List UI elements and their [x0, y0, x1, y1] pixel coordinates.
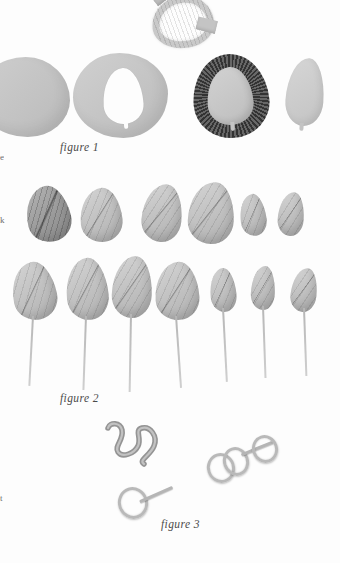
leaf-vein-texture — [140, 182, 185, 243]
figure2-wire-stem-4 — [175, 316, 182, 388]
leaf-vein-texture — [111, 255, 153, 318]
figure2-top-leaf-6 — [276, 191, 305, 237]
caption-figure-3: figure 3 — [161, 518, 200, 530]
margin-text-fragment-1: e — [0, 152, 4, 162]
wire-wrap-4 — [248, 432, 281, 467]
figure2-top-leaf-1 — [20, 182, 76, 247]
figure2-bottom-leaf-3 — [111, 255, 153, 318]
leaf-vein-texture — [250, 266, 276, 311]
leaf-vein-texture — [289, 267, 319, 313]
leaf-vein-texture — [77, 186, 124, 244]
leaf-vein-texture — [237, 192, 269, 237]
caption-figure-1: figure 1 — [60, 141, 99, 153]
leaf-vein-texture — [276, 191, 305, 237]
figure2-bottom-leaf-1 — [6, 258, 61, 324]
figure2-wire-stem-5 — [222, 308, 227, 382]
figure2-bottom-leaf-4 — [153, 261, 201, 322]
leaf-vein-texture — [63, 256, 111, 322]
leaf-vein-texture — [208, 267, 238, 313]
figure2-bottom-leaf-2 — [63, 256, 111, 322]
wire-wrap-1 — [114, 483, 152, 523]
leaf-vein-texture — [6, 258, 61, 324]
leaf-vein-texture — [20, 182, 76, 247]
figure2-top-leaf-5 — [237, 192, 269, 237]
figure2-bottom-leaf-7 — [289, 267, 319, 313]
leaf-vein-texture — [187, 181, 235, 245]
figure2-bottom-leaf-5 — [208, 267, 238, 313]
wire-tendril-coil — [104, 420, 194, 468]
leaf-vein-texture — [153, 261, 201, 322]
figure2-bottom-leaf-6 — [250, 266, 276, 311]
scanned-page: figure 1 figure 2 figure 3 e k t — [0, 0, 340, 563]
figure2-top-leaf-3 — [140, 182, 185, 243]
figure2-top-leaf-4 — [187, 181, 235, 245]
figure-3-group — [0, 405, 340, 563]
figure2-wire-stem-3 — [129, 314, 132, 392]
margin-text-fragment-3: t — [0, 493, 3, 503]
figure2-wire-stem-6 — [262, 306, 266, 378]
figure2-top-leaf-2 — [77, 186, 124, 244]
figure2-wire-stem-1 — [29, 316, 34, 386]
figure2-wire-stem-7 — [303, 308, 307, 376]
caption-figure-2: figure 2 — [60, 392, 99, 404]
figure-2-group — [0, 0, 340, 400]
figure2-wire-stem-2 — [83, 316, 87, 390]
margin-text-fragment-2: k — [0, 215, 5, 225]
